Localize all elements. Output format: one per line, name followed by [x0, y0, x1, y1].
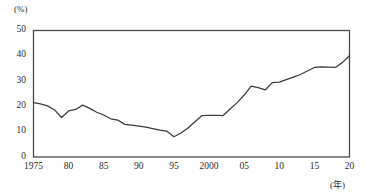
line-chart: (%) (年) 01020304050 19758085909520000510…: [0, 0, 367, 196]
plot-frame: [34, 31, 350, 158]
plot-area: [0, 0, 367, 196]
